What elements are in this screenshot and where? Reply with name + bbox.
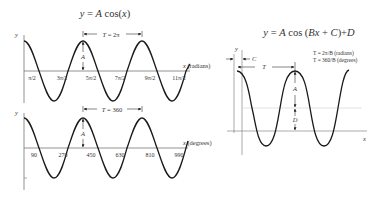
period-label: T = 360: [102, 106, 122, 113]
degrees-plot: y x(degrees) 90 270 450 630 810 990 T = …: [14, 106, 212, 191]
y-axis-label: y: [14, 109, 18, 116]
amplitude-label: A: [80, 130, 85, 137]
svg-text:5π/2: 5π/2: [86, 75, 97, 81]
right-title: y = A cos (Bx + C)+D: [262, 27, 355, 39]
svg-text:630: 630: [116, 152, 125, 158]
offset-label: D: [292, 116, 298, 123]
trig-diagram: y = A cos(x) y x(radians) π/2 3π/2 5π/2 …: [0, 0, 376, 201]
svg-text:90: 90: [31, 152, 37, 158]
x-axis-label: x: [362, 135, 366, 142]
radians-plot: y x(radians) π/2 3π/2 5π/2 7π/2 9π/2 11π…: [14, 31, 211, 104]
svg-text:810: 810: [146, 152, 155, 158]
svg-text:270: 270: [59, 152, 68, 158]
amplitude-label: A: [80, 53, 85, 60]
phase-label: C: [252, 55, 257, 62]
general-plot: y x C T A D T = 2π/B (radians) T = 360/B…: [226, 45, 367, 155]
x-tick-labels: π/2 3π/2 5π/2 7π/2 9π/2 11π/2: [28, 75, 186, 81]
period-label: T = 2π: [102, 31, 120, 38]
y-axis-label: y: [14, 31, 18, 38]
x-axis-label: x(radians): [182, 62, 211, 70]
period-formula-degrees: T = 360/B (degrees): [313, 57, 358, 64]
svg-text:450: 450: [87, 152, 96, 158]
svg-text:3π/2: 3π/2: [57, 75, 68, 81]
svg-text:7π/2: 7π/2: [115, 75, 126, 81]
svg-text:990: 990: [175, 152, 184, 158]
svg-text:9π/2: 9π/2: [145, 75, 156, 81]
period-formula-radians: T = 2π/B (radians): [313, 50, 354, 57]
period-label: T: [262, 63, 266, 70]
amplitude-label: A: [292, 85, 297, 92]
y-axis-label: y: [234, 45, 238, 52]
svg-text:11π/2: 11π/2: [172, 75, 185, 81]
left-title: y = A cos(x): [79, 8, 131, 20]
svg-text:π/2: π/2: [28, 75, 36, 81]
